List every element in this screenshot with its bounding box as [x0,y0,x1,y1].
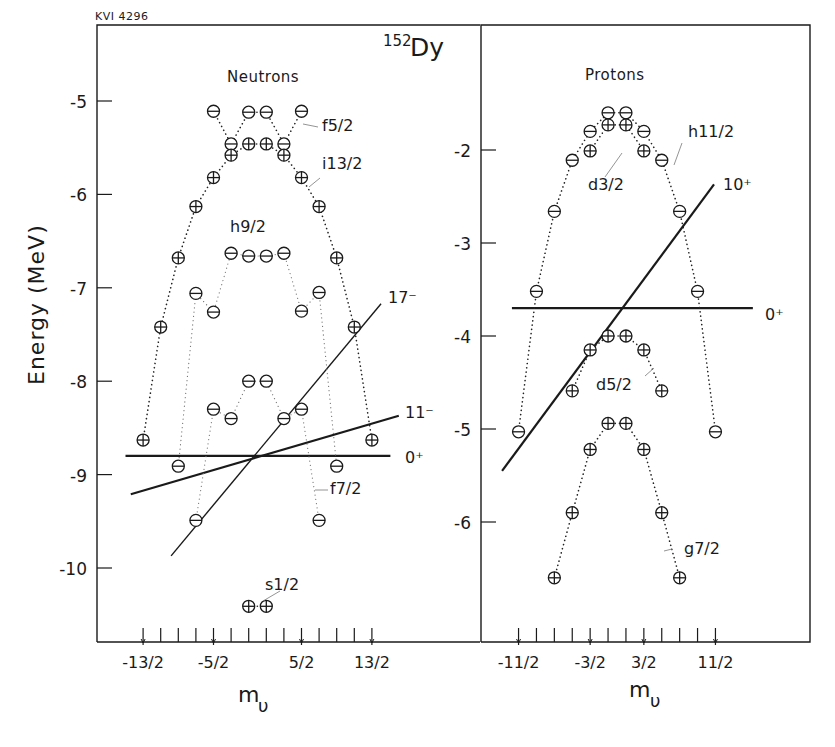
nucleus-symbol: Dy [410,33,444,62]
minus-parity-marker [260,106,272,118]
y-tick-label: -9 [70,466,87,486]
minus-parity-marker [243,250,255,262]
y-tick-label: -7 [70,279,87,299]
plot-layer: -5-6-7-8-9-10-13/2-5/25/213/20⁺11⁻17⁻f5/… [59,92,783,672]
x-axis-label-main: m [629,677,650,702]
plus-parity-marker [620,330,632,342]
plus-parity-marker [225,149,237,161]
orbital-label: f7/2 [330,479,361,498]
x-axis-label-sub: υ [650,690,660,711]
plus-parity-marker [208,172,220,184]
plus-parity-marker [584,344,596,356]
minus-parity-marker [313,514,325,526]
minus-parity-marker [225,138,237,150]
dotted-connector [178,253,336,466]
x-tick-label: 5/2 [289,653,315,672]
plus-parity-marker [566,385,578,397]
y-tick-label: -3 [454,234,471,254]
label-leader [303,124,318,127]
plus-parity-marker [548,572,560,584]
y-tick-label: -6 [70,185,87,205]
y-tick-label: -5 [70,92,87,112]
plus-parity-marker [348,321,360,333]
y-tick-label: -10 [59,559,87,579]
dotted-connector [196,381,319,520]
orbital-label: h9/2 [230,217,266,236]
orbital-label: f5/2 [322,116,353,135]
minus-parity-marker [566,154,578,166]
x-axis-label-main: m [238,682,259,707]
plus-parity-marker [602,330,614,342]
orbital-label: d3/2 [588,175,624,194]
label-leader [309,178,320,187]
x-tick-label: 13/2 [354,653,390,672]
plus-parity-marker [313,201,325,213]
minus-parity-marker [225,413,237,425]
x-tick-label: -11/2 [498,653,540,672]
minus-parity-marker [225,247,237,259]
minus-parity-marker [548,205,560,217]
orbital-label: s1/2 [265,575,299,594]
proton-plot: -2-3-4-5-6-11/2-3/23/211/20⁺10⁺h11/2d3/2… [454,107,784,672]
band-label: 17⁻ [388,288,417,307]
neutron-x-axis-label: m υ [238,682,268,716]
label-leader [664,549,672,551]
plus-parity-marker [190,201,202,213]
label-leader [605,153,622,177]
minus-parity-marker [208,306,220,318]
figure-id: KVI 4296 [95,10,148,23]
plus-parity-marker [172,252,184,264]
minus-parity-marker [602,107,614,119]
minus-parity-marker [656,154,668,166]
minus-parity-marker [638,125,650,137]
minus-parity-marker [513,426,525,438]
minus-parity-marker [296,305,308,317]
plus-parity-marker [602,417,614,429]
y-tick-label: -8 [70,372,87,392]
minus-parity-marker [243,375,255,387]
plus-parity-marker [366,434,378,446]
orbital-label: g7/2 [684,539,720,558]
figure: KVI 4296 152 Dy Neutrons Protons Energy … [0,0,835,747]
plus-parity-marker [638,344,650,356]
x-tick-label: 11/2 [697,653,733,672]
band-label: 11⁻ [405,403,434,422]
protons-title: Protons [585,66,645,84]
dotted-connector [554,423,679,577]
plus-parity-marker [155,321,167,333]
x-tick-label: 3/2 [631,653,657,672]
band-label: 0⁺ [405,448,424,467]
minus-parity-marker [190,287,202,299]
minus-parity-marker [278,247,290,259]
dotted-connector [143,144,372,440]
plus-parity-marker [243,138,255,150]
minus-parity-marker [208,105,220,117]
plus-parity-marker [566,507,578,519]
plus-parity-marker [584,443,596,455]
minus-parity-marker [260,375,272,387]
minus-parity-marker [584,125,596,137]
plus-parity-marker [260,600,272,612]
minus-parity-marker [692,285,704,297]
minus-parity-marker [190,514,202,526]
minus-parity-marker [331,460,343,472]
plus-parity-marker [584,145,596,157]
plus-parity-marker [260,138,272,150]
neutron-plot: -5-6-7-8-9-10-13/2-5/25/213/20⁺11⁻17⁻f5/… [59,92,434,672]
plus-parity-marker [656,507,668,519]
plus-parity-marker [602,119,614,131]
minus-parity-marker [278,138,290,150]
plus-parity-marker [674,572,686,584]
x-tick-label: -13/2 [122,653,164,672]
minus-parity-marker [674,205,686,217]
plus-parity-marker [638,145,650,157]
orbital-s1-2: s1/2 [243,575,299,612]
y-tick-label: -5 [454,420,471,440]
plus-parity-marker [296,172,308,184]
orbital-label: i13/2 [322,154,362,173]
minus-parity-marker [620,107,632,119]
orbital-label: d5/2 [596,375,632,394]
label-leader [674,143,682,165]
label-leader [645,368,654,376]
neutrons-title: Neutrons [227,68,299,86]
